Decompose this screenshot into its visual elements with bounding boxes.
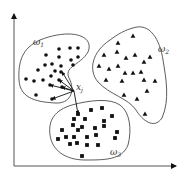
triangle-marker bbox=[131, 71, 136, 75]
square-marker bbox=[115, 130, 119, 134]
query-point-label: xj bbox=[76, 82, 83, 94]
triangle-marker bbox=[107, 67, 112, 71]
triangle-marker bbox=[124, 56, 129, 60]
circle-marker bbox=[34, 93, 38, 97]
square-marker bbox=[75, 141, 79, 145]
square-marker bbox=[96, 143, 100, 147]
square-marker bbox=[68, 142, 72, 146]
triangle-marker bbox=[102, 53, 107, 57]
circle-marker bbox=[69, 58, 73, 62]
triangle-marker bbox=[122, 93, 127, 97]
triangle-marker bbox=[153, 79, 158, 83]
cluster-label-omega2: ω2 bbox=[158, 44, 169, 55]
circle-marker bbox=[44, 53, 48, 57]
square-marker bbox=[100, 106, 104, 110]
triangle-marker bbox=[116, 41, 121, 45]
circle-marker bbox=[68, 46, 72, 50]
square-marker bbox=[72, 135, 76, 139]
cluster-diagram: ω1ω2ω3xj bbox=[0, 0, 187, 181]
square-marker bbox=[64, 135, 68, 139]
circle-marker bbox=[32, 79, 36, 83]
circle-marker bbox=[50, 62, 54, 66]
square-marker bbox=[80, 154, 84, 158]
triangle-marker bbox=[131, 34, 136, 38]
circle-marker bbox=[53, 69, 57, 73]
triangle-marker bbox=[97, 64, 102, 68]
triangle-marker bbox=[133, 53, 138, 57]
circle-marker bbox=[76, 46, 80, 50]
square-marker bbox=[56, 137, 60, 141]
circle-marker bbox=[57, 47, 61, 51]
circle-marker bbox=[76, 55, 80, 59]
triangle-marker bbox=[135, 97, 140, 101]
triangle-marker bbox=[143, 112, 148, 116]
triangle-marker bbox=[142, 60, 147, 64]
square-marker bbox=[102, 119, 106, 123]
circle-marker bbox=[71, 63, 75, 67]
circle-marker bbox=[49, 74, 53, 78]
circle-marker bbox=[59, 64, 63, 68]
square-marker bbox=[93, 126, 97, 130]
square-marker bbox=[94, 133, 98, 137]
triangle-marker bbox=[116, 64, 121, 68]
triangle-marker bbox=[139, 70, 144, 74]
square-marker bbox=[72, 117, 76, 121]
circle-marker bbox=[24, 77, 28, 81]
square-marker bbox=[110, 114, 114, 118]
triangle-marker bbox=[120, 79, 125, 83]
square-marker bbox=[80, 125, 84, 129]
neighbor-arrow bbox=[74, 91, 78, 114]
triangle-marker bbox=[148, 55, 153, 59]
square-marker bbox=[102, 124, 106, 128]
square-marker bbox=[85, 143, 89, 147]
square-marker bbox=[71, 123, 75, 127]
circle-marker bbox=[43, 63, 47, 67]
circle-marker bbox=[36, 68, 40, 72]
triangle-marker bbox=[115, 50, 120, 54]
cluster-boundary bbox=[19, 34, 89, 103]
triangle-marker bbox=[123, 71, 128, 75]
circle-marker bbox=[57, 55, 61, 59]
square-marker bbox=[85, 135, 89, 139]
square-marker bbox=[83, 117, 87, 121]
circle-marker bbox=[41, 78, 45, 82]
triangle-marker bbox=[104, 78, 109, 82]
square-marker bbox=[76, 128, 80, 132]
square-marker bbox=[60, 128, 64, 132]
triangle-marker bbox=[142, 78, 147, 82]
labels: ω1ω2ω3xj bbox=[33, 37, 169, 158]
triangle-marker bbox=[145, 89, 150, 93]
cluster-label-omega3: ω3 bbox=[110, 147, 121, 158]
square-marker bbox=[89, 108, 93, 112]
square-marker bbox=[113, 136, 117, 140]
cluster-omega1 bbox=[19, 34, 89, 103]
